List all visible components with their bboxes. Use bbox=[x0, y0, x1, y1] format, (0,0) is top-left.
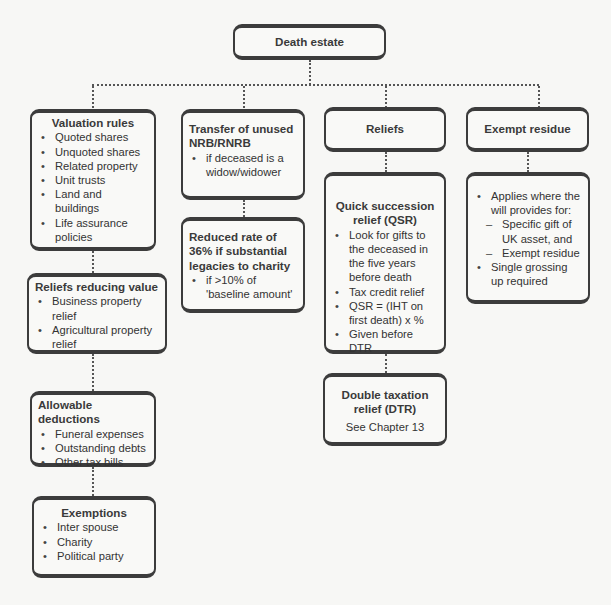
list-item: Applies where the will provides for: Spe… bbox=[491, 189, 582, 260]
list-item: Political party bbox=[57, 549, 148, 563]
death-estate-box: Death estate bbox=[233, 24, 386, 60]
exemptions-title: Exemptions bbox=[40, 506, 148, 520]
list-item: Single grossing up required bbox=[491, 260, 582, 288]
connector-exempt-residue-detail bbox=[527, 152, 529, 172]
allowable-deductions-list: Funeral expenses Outstanding debts Other… bbox=[38, 427, 148, 470]
list-item: Land and buildings bbox=[55, 187, 148, 215]
reduced-rate-box: Reduced rate of 36% if substantial legac… bbox=[181, 217, 305, 313]
list-item: Other tax bills bbox=[55, 455, 148, 469]
connector-qsr-dtr bbox=[385, 354, 387, 373]
list-item: Charity bbox=[57, 535, 148, 549]
exempt-residue-title: Exempt residue bbox=[484, 122, 570, 136]
reliefs-title: Reliefs bbox=[366, 122, 404, 136]
connector-to-transfer bbox=[243, 86, 245, 108]
list-item: Inter spouse bbox=[57, 520, 148, 534]
valuation-rules-box: Valuation rules Quoted shares Unquoted s… bbox=[30, 109, 156, 251]
list-item: Life assurance policies bbox=[55, 216, 148, 244]
exempt-residue-detail-list: Applies where the will provides for: Spe… bbox=[474, 189, 582, 288]
connector-allowable-exemptions bbox=[92, 467, 94, 496]
reliefs-reducing-value-box: Reliefs reducing value Business property… bbox=[27, 273, 167, 354]
sub-list-item: Specific gift of UK asset, and bbox=[502, 217, 582, 245]
connector-to-valuation bbox=[92, 86, 94, 108]
list-item: Given before DTR bbox=[349, 327, 438, 355]
list-item: QSR = (IHT on first death) x % bbox=[349, 299, 438, 327]
connector-horizontal bbox=[92, 84, 539, 86]
list-item: Look for gifts to the deceased in the fi… bbox=[349, 228, 438, 285]
death-estate-title: Death estate bbox=[275, 35, 344, 49]
reliefs-reducing-value-title: Reliefs reducing value bbox=[35, 280, 159, 294]
sub-list-item: Exempt residue bbox=[502, 246, 582, 260]
allowable-deductions-box: Allowable deductions Funeral expenses Ou… bbox=[30, 391, 156, 467]
transfer-nrb-box: Transfer of unused NRB/RNRB if deceased … bbox=[181, 109, 305, 200]
dtr-box: Double taxation relief (DTR) See Chapter… bbox=[323, 373, 447, 446]
exemptions-box: Exemptions Inter spouse Charity Politica… bbox=[32, 496, 156, 578]
list-item: Tax credit relief bbox=[349, 285, 438, 299]
list-item: Quoted shares bbox=[55, 130, 148, 144]
valuation-rules-list: Quoted shares Unquoted shares Related pr… bbox=[38, 130, 148, 244]
list-item: Outstanding debts bbox=[55, 441, 148, 455]
reliefs-reducing-value-list: Business property relief Agricultural pr… bbox=[35, 294, 159, 351]
dtr-note: See Chapter 13 bbox=[331, 420, 439, 434]
connector-reliefs-reducing-allowable bbox=[92, 354, 94, 391]
connector-transfer-reduced bbox=[243, 200, 245, 217]
transfer-nrb-list: if deceased is a widow/widower bbox=[189, 151, 297, 179]
list-item: if deceased is a widow/widower bbox=[206, 151, 297, 179]
exempt-residue-box: Exempt residue bbox=[466, 107, 589, 152]
list-item-text: Applies where the will provides for: bbox=[491, 190, 580, 216]
valuation-rules-title: Valuation rules bbox=[38, 116, 148, 130]
list-item: Unquoted shares bbox=[55, 145, 148, 159]
list-item: Funeral expenses bbox=[55, 427, 148, 441]
dtr-title: Double taxation relief (DTR) bbox=[331, 388, 439, 417]
list-item: Business property relief bbox=[52, 294, 159, 322]
connector-to-exempt-residue bbox=[538, 86, 540, 108]
list-item: Agricultural property relief bbox=[52, 323, 159, 351]
qsr-title: Quick succession relief (QSR) bbox=[332, 199, 438, 228]
exempt-residue-sublist: Specific gift of UK asset, and Exempt re… bbox=[491, 217, 582, 260]
list-item: if >10% of 'baseline amount' bbox=[206, 273, 297, 301]
qsr-box: Quick succession relief (QSR) Look for g… bbox=[324, 172, 446, 354]
reduced-rate-list: if >10% of 'baseline amount' bbox=[189, 273, 297, 301]
allowable-deductions-title: Allowable deductions bbox=[38, 398, 148, 427]
exemptions-list: Inter spouse Charity Political party bbox=[40, 520, 148, 563]
connector-reliefs-qsr bbox=[385, 152, 387, 172]
reduced-rate-title: Reduced rate of 36% if substantial legac… bbox=[189, 230, 297, 273]
connector-root-down bbox=[309, 60, 311, 85]
exempt-residue-detail-box: Applies where the will provides for: Spe… bbox=[466, 172, 590, 304]
reliefs-box: Reliefs bbox=[324, 107, 446, 152]
connector-valuation-reliefs-reducing bbox=[92, 251, 94, 273]
transfer-nrb-title: Transfer of unused NRB/RNRB bbox=[189, 122, 297, 151]
connector-to-reliefs bbox=[385, 86, 387, 108]
list-item: Related property bbox=[55, 159, 148, 173]
qsr-list: Look for gifts to the deceased in the fi… bbox=[332, 228, 438, 356]
list-item: Unit trusts bbox=[55, 173, 148, 187]
